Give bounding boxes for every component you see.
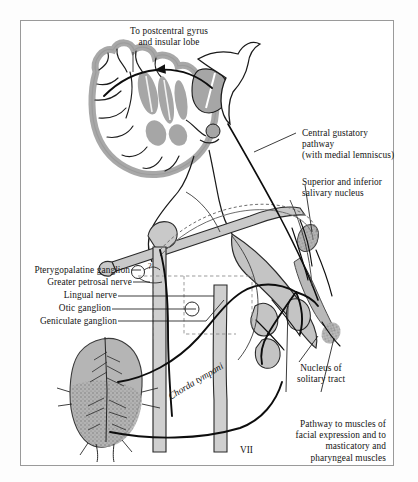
- label-central-gustatory-pathway: Central gustatory pathway (with medial l…: [302, 128, 418, 162]
- label-pterygopalatine-ganglion: Pterygopalatine ganglion: [6, 265, 130, 276]
- label-greater-petrosal-nerve: Greater petrosal nerve: [6, 277, 132, 288]
- label-query-marker: ?: [148, 262, 152, 271]
- tongue: [57, 337, 160, 462]
- label-pathway-to-muscles: Pathway to muscles of facial expression …: [258, 419, 386, 464]
- label-lingual-nerve: Lingual nerve: [6, 290, 117, 301]
- label-otic-ganglion: Otic ganglion: [6, 303, 111, 314]
- label-postcentral-gyrus: To postcentral gyrus and insular lobe: [108, 26, 230, 48]
- label-geniculate-ganglion: Geniculate ganglion: [6, 316, 117, 327]
- label-nucleus-solitary-tract: Nucleus of solitary tract: [281, 363, 361, 385]
- label-salivary-nucleus: Superior and inferior salivary nucleus: [302, 177, 414, 199]
- label-nerve-seven: VII: [240, 445, 253, 455]
- anatomical-figure: To postcentral gyrus and insular lobe Ce…: [0, 0, 418, 482]
- diagram-artwork: [0, 0, 418, 482]
